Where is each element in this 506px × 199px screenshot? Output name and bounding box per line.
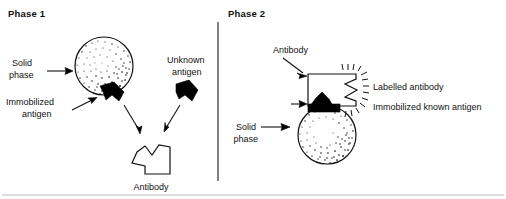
binding-arrow-left-head bbox=[136, 126, 142, 135]
phase1-title: Phase 1 bbox=[8, 8, 46, 19]
phase2-binding-arrow bbox=[291, 101, 307, 108]
phase1-unknown-antigen-wedge bbox=[176, 80, 198, 101]
solid-phase-label-line2: phase bbox=[9, 70, 34, 80]
phase2-panel: Phase 2 Antibody bbox=[228, 8, 482, 165]
immobilized-arrow-head bbox=[88, 98, 97, 104]
phase2-title: Phase 2 bbox=[228, 8, 265, 19]
phase2-antibody-arrow-head bbox=[297, 73, 307, 79]
diagram-canvas: Phase 1 bbox=[0, 0, 506, 199]
phase1-antibody-polygon bbox=[132, 145, 170, 174]
immobilized-arrow-shaft bbox=[72, 99, 94, 110]
phase1-binding-arrow-left bbox=[124, 105, 142, 134]
phase2-solid-phase-sphere bbox=[298, 106, 356, 165]
unknown-label-line2: antigen bbox=[172, 67, 202, 77]
phase2-antigen-base bbox=[308, 104, 340, 112]
immunoassay-diagram: Phase 1 bbox=[0, 0, 506, 199]
phase1-antibody-label: Antibody bbox=[133, 182, 169, 192]
phase1-panel: Phase 1 bbox=[6, 8, 205, 192]
immobilized-label-line2: antigen bbox=[22, 109, 52, 119]
phase2-antibody-label: Antibody bbox=[273, 45, 309, 55]
solid-phase-arrow-head bbox=[65, 68, 73, 75]
solid-phase-arrow-head bbox=[281, 124, 290, 131]
solid-phase-label-line1: Solid bbox=[12, 58, 32, 68]
phase2-legend-labelled-antibody: Labelled antibody bbox=[373, 82, 444, 92]
unknown-label-line1: Unknown bbox=[167, 55, 205, 65]
phase2-antibody-annotation: Antibody bbox=[273, 45, 309, 79]
phase2-binding-arrow-head bbox=[299, 101, 307, 108]
solid-phase-label-line1: Solid bbox=[236, 122, 256, 132]
immobilized-label-line1: Immobilized bbox=[6, 97, 54, 107]
phase2-legend-immobilized-known-antigen: Immobilized known antigen bbox=[373, 102, 482, 112]
sphere-outline bbox=[298, 106, 356, 164]
phase1-immobilized-antigen-annotation: Immobilized antigen bbox=[6, 97, 97, 119]
phase2-antibody-arrow-shaft bbox=[283, 58, 303, 73]
binding-arrow-right-shaft bbox=[166, 105, 180, 128]
phase1-binding-arrow-right bbox=[164, 105, 180, 132]
phase1-unknown-antigen-annotation: Unknown antigen bbox=[167, 55, 205, 77]
solid-phase-label-line2: phase bbox=[233, 134, 258, 144]
phase1-solid-phase-annotation: Solid phase bbox=[9, 58, 73, 80]
phase2-solid-phase-annotation: Solid phase bbox=[233, 122, 290, 144]
